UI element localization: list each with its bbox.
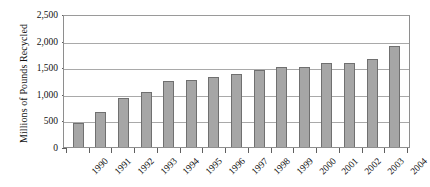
x-axis-tick-mark (89, 148, 90, 153)
y-axis-tick-1000: 1,000 (0, 90, 58, 100)
bar-1994[interactable] (163, 81, 174, 148)
y-axis-title: Millions of Pounds Recycled (18, 14, 29, 154)
bar-2003[interactable] (367, 59, 378, 147)
x-axis: 1990199119921993199419951996199719981999… (63, 148, 410, 187)
bar-1998[interactable] (254, 70, 265, 147)
bar-slot (157, 16, 180, 147)
bar-slot (270, 16, 293, 147)
x-axis-tick-mark (111, 148, 112, 153)
x-axis-tick-mark (293, 148, 294, 153)
bar-1991[interactable] (95, 112, 106, 147)
x-axis-tick-mark (384, 148, 385, 153)
x-axis-label-2004: 2004 (408, 156, 429, 177)
x-axis-label-1991: 1991 (113, 156, 134, 177)
y-axis-tick-2500: 2,500 (0, 10, 58, 20)
x-axis-label-2001: 2001 (340, 156, 361, 177)
x-axis-label-1996: 1996 (226, 156, 247, 177)
x-axis-label-1998: 1998 (272, 156, 293, 177)
x-axis-tick-mark (66, 148, 67, 153)
y-axis-tick-500: 500 (0, 116, 58, 126)
x-axis-label-1997: 1997 (249, 156, 270, 177)
x-axis-tick-mark (362, 148, 363, 153)
bar-2002[interactable] (344, 63, 355, 147)
bar-slot (203, 16, 226, 147)
x-axis-label-1994: 1994 (181, 156, 202, 177)
bar-1993[interactable] (141, 92, 152, 147)
bar-1990[interactable] (73, 123, 84, 147)
bar-slot (383, 16, 406, 147)
bar-series (64, 16, 409, 147)
bar-1992[interactable] (118, 98, 129, 147)
bar-2004[interactable] (389, 46, 400, 147)
bar-slot (361, 16, 384, 147)
y-axis-tick-0: 0 (0, 143, 58, 153)
bar-slot (316, 16, 339, 147)
bar-chart: Millions of Pounds Recycled 05001,0001,5… (0, 0, 430, 187)
bar-1997[interactable] (231, 74, 242, 147)
x-axis-tick-mark (407, 148, 408, 153)
y-axis-tick-1500: 1,500 (0, 63, 58, 73)
x-axis-label-2003: 2003 (385, 156, 406, 177)
x-axis-tick-mark (248, 148, 249, 153)
x-axis-label-1992: 1992 (135, 156, 156, 177)
plot-area (63, 15, 410, 148)
x-axis-tick-mark (271, 148, 272, 153)
x-axis-label-1993: 1993 (158, 156, 179, 177)
x-axis-label-1990: 1990 (90, 156, 111, 177)
bar-2000[interactable] (299, 67, 310, 147)
x-axis-label-2002: 2002 (363, 156, 384, 177)
x-axis-tick-mark (316, 148, 317, 153)
bar-1996[interactable] (208, 77, 219, 147)
x-axis-label-1999: 1999 (295, 156, 316, 177)
bar-1999[interactable] (276, 67, 287, 147)
x-axis-tick-mark (339, 148, 340, 153)
x-axis-label-2000: 2000 (317, 156, 338, 177)
bar-slot (293, 16, 316, 147)
x-axis-tick-mark (202, 148, 203, 153)
bar-slot (248, 16, 271, 147)
y-axis-tick-2000: 2,000 (0, 37, 58, 47)
x-axis-tick-mark (225, 148, 226, 153)
x-axis-label-1995: 1995 (204, 156, 225, 177)
bar-slot (112, 16, 135, 147)
bar-slot (67, 16, 90, 147)
x-axis-tick-mark (157, 148, 158, 153)
bar-slot (180, 16, 203, 147)
x-axis-tick-mark (134, 148, 135, 153)
bar-slot (338, 16, 361, 147)
x-axis-tick-mark (180, 148, 181, 153)
bar-1995[interactable] (186, 80, 197, 147)
bar-slot (135, 16, 158, 147)
bar-slot (225, 16, 248, 147)
bar-2001[interactable] (321, 63, 332, 147)
bar-slot (90, 16, 113, 147)
